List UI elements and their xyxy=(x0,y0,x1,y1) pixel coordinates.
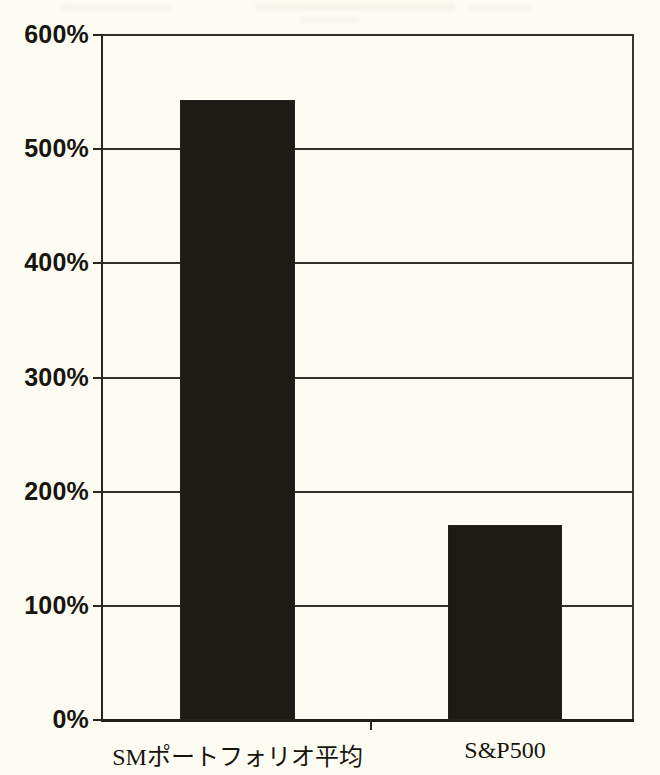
scan-artifact-smudge xyxy=(300,17,360,23)
bar xyxy=(449,526,561,719)
chart-plot-area: 0%100%200%300%400%500%600% SMポートフォリオ平均S&… xyxy=(101,34,634,719)
y-axis-tick xyxy=(93,491,103,493)
scan-artifact-smudge xyxy=(60,4,170,11)
y-axis-tick xyxy=(93,719,103,721)
y-axis-label: 0% xyxy=(52,705,89,734)
x-axis-category-label: SMポートフォリオ平均 xyxy=(112,737,363,772)
y-axis-label: 200% xyxy=(24,476,89,505)
y-axis-label: 600% xyxy=(24,20,89,49)
y-axis-tick xyxy=(93,148,103,150)
y-axis-label: 300% xyxy=(24,362,89,391)
gridline xyxy=(101,34,634,36)
y-axis-label: 100% xyxy=(24,590,89,619)
y-axis-tick xyxy=(93,605,103,607)
scan-artifact-smudge xyxy=(255,3,455,11)
y-axis-label: 400% xyxy=(24,248,89,277)
gridline xyxy=(101,719,634,722)
y-axis-label: 500% xyxy=(24,134,89,163)
y-axis-tick xyxy=(93,377,103,379)
y-axis-tick xyxy=(93,262,103,264)
scanned-page: 0%100%200%300%400%500%600% SMポートフォリオ平均S&… xyxy=(0,0,660,775)
y-axis-tick xyxy=(93,34,103,36)
category-separator-tick xyxy=(370,719,372,730)
bar xyxy=(181,101,294,719)
scan-artifact-smudge xyxy=(470,5,530,11)
x-axis-category-label: S&P500 xyxy=(464,737,545,764)
